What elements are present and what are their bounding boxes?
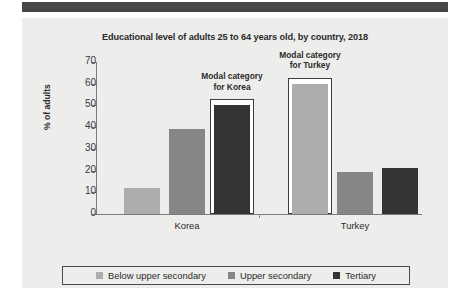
annotation-turkey-modal: Modal categoryfor Turkey <box>255 50 365 71</box>
annotation-line-1: Modal category <box>177 71 287 82</box>
legend-item: Below upper secondary <box>96 270 206 281</box>
x-axis-category-label: Korea <box>147 220 227 231</box>
annotation-line-2: for Korea <box>177 82 287 93</box>
x-axis-mid-tick <box>259 214 260 218</box>
y-tick-label-text: 30 <box>74 142 96 153</box>
annotation-korea-modal: Modal categoryfor Korea <box>177 71 287 92</box>
legend-label: Below upper secondary <box>108 270 206 281</box>
y-tick-label-text: 60 <box>74 77 96 88</box>
legend-item: Tertiary <box>333 270 376 281</box>
legend-swatch-icon <box>96 272 103 279</box>
chart-legend: Below upper secondaryUpper secondaryTert… <box>62 266 410 285</box>
plot-area: 010203040506070 Modal categoryfor KoreaM… <box>96 62 424 214</box>
bar <box>124 188 160 214</box>
y-tick-label-text: 50 <box>74 98 96 109</box>
y-axis-line <box>96 62 97 215</box>
legend-swatch-icon <box>333 272 340 279</box>
y-tick-label-text: 0 <box>74 207 96 218</box>
bar <box>169 129 205 214</box>
y-tick-label-text: 70 <box>74 55 96 66</box>
legend-label: Tertiary <box>345 270 376 281</box>
chart-panel: Educational level of adults 25 to 64 yea… <box>22 18 448 288</box>
chart-page: Educational level of adults 25 to 64 yea… <box>0 0 470 300</box>
annotation-line-1: Modal category <box>255 50 365 61</box>
bar <box>337 172 373 214</box>
y-tick-label-text: 40 <box>74 120 96 131</box>
legend-label: Upper secondary <box>240 270 311 281</box>
bar <box>214 105 250 214</box>
y-tick-label-text: 10 <box>74 185 96 196</box>
bar <box>292 84 328 214</box>
bar <box>382 168 418 214</box>
x-axis-category-label: Turkey <box>315 220 395 231</box>
y-axis-label: % of adults <box>42 84 52 130</box>
legend-item: Upper secondary <box>228 270 311 281</box>
chart-title: Educational level of adults 25 to 64 yea… <box>22 32 448 42</box>
legend-swatch-icon <box>228 272 235 279</box>
annotation-line-2: for Turkey <box>255 60 365 71</box>
y-tick-label-text: 20 <box>74 164 96 175</box>
top-banner <box>22 2 448 12</box>
